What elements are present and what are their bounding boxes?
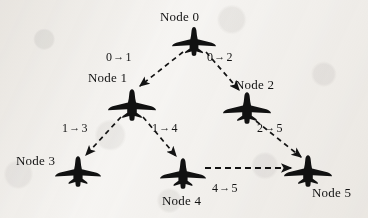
- node-label-4: Node 4: [162, 194, 201, 207]
- fighter-jet-icon-node-1[interactable]: [108, 89, 156, 121]
- edge-label-0-2-target: 2: [226, 50, 232, 64]
- edge-line-1-3: [86, 117, 121, 155]
- network-topology-figure: Node 0 Node 1 Node 2 Node 3 Node 4 Node …: [0, 0, 368, 218]
- fighter-jet-icon-node-4[interactable]: [160, 158, 206, 188]
- edge-label-0-1-target: 1: [125, 50, 131, 64]
- node-label-5: Node 5: [312, 186, 351, 199]
- link-arrow-icon: →: [263, 122, 276, 133]
- fighter-jet-icon-node-5[interactable]: [284, 155, 332, 187]
- link-arrow-icon: →: [112, 51, 125, 62]
- fighter-jet-icon-node-2[interactable]: [223, 92, 271, 124]
- edge-line-0-1: [140, 52, 183, 86]
- edge-label-2-5: 2→5: [257, 122, 283, 134]
- link-arrow-icon: →: [68, 122, 81, 133]
- node-label-1: Node 1: [88, 71, 127, 84]
- node-label-3: Node 3: [16, 154, 55, 167]
- link-arrow-icon: →: [218, 182, 231, 193]
- edge-label-4-5-target: 5: [231, 181, 237, 195]
- node-label-0: Node 0: [160, 10, 199, 23]
- edge-label-2-5-target: 5: [276, 121, 282, 135]
- edge-label-1-3: 1→3: [62, 122, 88, 134]
- node-label-2: Node 2: [235, 78, 274, 91]
- edge-label-0-1: 0→1: [106, 51, 132, 63]
- edge-label-1-3-target: 3: [81, 121, 87, 135]
- link-arrow-icon: →: [213, 51, 226, 62]
- link-arrow-icon: →: [158, 122, 171, 133]
- edge-label-4-5: 4→5: [212, 182, 238, 194]
- edge-label-1-4: 1→4: [152, 122, 178, 134]
- node-icon-layer: [55, 27, 332, 189]
- fighter-jet-icon-node-3[interactable]: [55, 156, 101, 186]
- edge-label-0-2: 0→2: [207, 51, 233, 63]
- edge-label-1-4-target: 4: [171, 121, 177, 135]
